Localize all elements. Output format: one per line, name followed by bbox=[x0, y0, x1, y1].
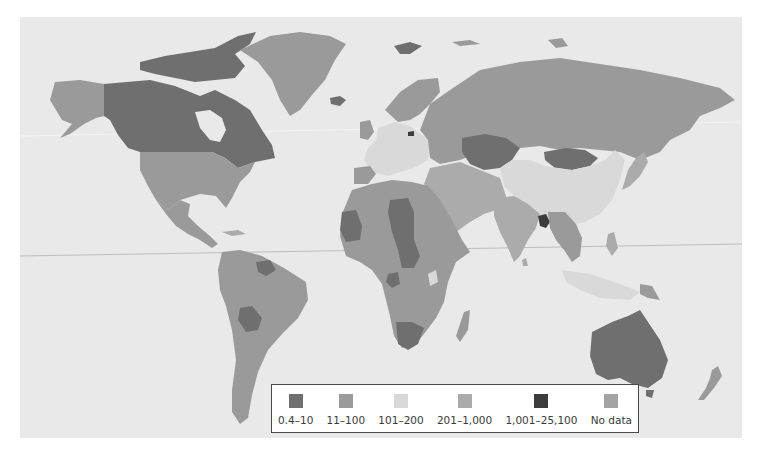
legend-swatch bbox=[458, 394, 472, 408]
legend-item-no-data: No data bbox=[591, 385, 632, 432]
region-arctic-islands[interactable] bbox=[452, 38, 568, 48]
region-sri-lanka[interactable] bbox=[522, 258, 528, 266]
legend-label: 11–100 bbox=[327, 414, 366, 426]
legend-item-101-200: 101–200 bbox=[378, 385, 423, 432]
region-png[interactable] bbox=[640, 284, 660, 300]
legend-label: 101–200 bbox=[378, 414, 423, 426]
legend-label: No data bbox=[591, 414, 632, 426]
legend-swatch bbox=[394, 394, 408, 408]
legend-label: 201–1,000 bbox=[437, 414, 492, 426]
region-madagascar[interactable] bbox=[456, 310, 470, 342]
legend-swatch bbox=[339, 394, 353, 408]
region-namibia[interactable] bbox=[396, 322, 424, 350]
legend: 0.4–10 11–100 101–200 201–1,000 1,001–25… bbox=[271, 384, 639, 433]
region-canada-arctic[interactable] bbox=[140, 32, 256, 82]
world-map bbox=[20, 17, 742, 438]
legend-swatch bbox=[289, 394, 303, 408]
legend-item-201-1000: 201–1,000 bbox=[437, 385, 492, 432]
legend-item-1001-25100: 1,001–25,100 bbox=[505, 385, 577, 432]
region-greenland[interactable] bbox=[240, 32, 346, 116]
region-svalbard[interactable] bbox=[394, 42, 422, 54]
legend-label: 1,001–25,100 bbox=[505, 414, 577, 426]
region-tasmania[interactable] bbox=[646, 390, 654, 398]
legend-swatch bbox=[604, 394, 618, 408]
region-uk[interactable] bbox=[360, 120, 374, 140]
legend-item-11-100: 11–100 bbox=[327, 385, 366, 432]
region-new-zealand[interactable] bbox=[698, 366, 722, 400]
region-philippines[interactable] bbox=[606, 232, 618, 256]
region-australia[interactable] bbox=[590, 310, 668, 388]
region-alaska[interactable] bbox=[50, 80, 104, 138]
legend-swatch bbox=[534, 394, 548, 408]
legend-label: 0.4–10 bbox=[278, 414, 313, 426]
legend-item-0.4-10: 0.4–10 bbox=[278, 385, 313, 432]
map-svg bbox=[20, 17, 742, 438]
region-iceland[interactable] bbox=[330, 96, 346, 106]
region-caribbean[interactable] bbox=[222, 230, 246, 236]
region-indonesia[interactable] bbox=[562, 270, 640, 300]
